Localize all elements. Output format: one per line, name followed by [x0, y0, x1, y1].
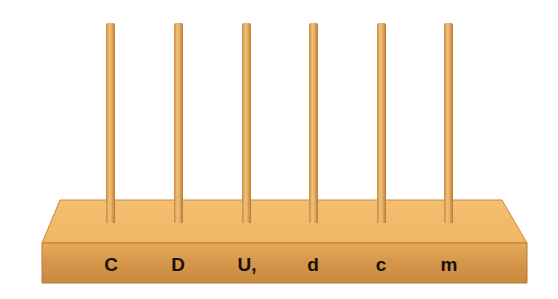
label-decenas: D	[163, 254, 193, 276]
label-decimas: d	[298, 254, 328, 276]
rod-d	[174, 23, 183, 223]
rod-c	[106, 23, 115, 223]
abacus-scene: C D U, d c m	[0, 0, 558, 299]
abacus-base	[0, 0, 558, 299]
label-centenas: C	[96, 254, 126, 276]
rod-c-lower	[377, 23, 386, 223]
rod-m	[444, 23, 453, 223]
rod-u	[242, 23, 251, 223]
label-centesimas: c	[366, 254, 396, 276]
label-milesimas: m	[434, 254, 464, 276]
rod-d-lower	[309, 23, 318, 223]
label-unidades: U,	[232, 254, 262, 276]
